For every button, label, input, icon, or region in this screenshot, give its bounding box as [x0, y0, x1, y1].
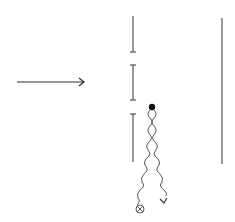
wavy-path-right — [152, 110, 166, 196]
arrow-head-icon — [160, 198, 167, 203]
circled-cross-icon — [136, 205, 144, 213]
filled-dot-icon — [149, 104, 155, 110]
diagram-canvas — [0, 0, 235, 222]
wavy-path-left — [137, 110, 152, 205]
incident-arrow — [17, 78, 84, 86]
slit-barrier — [130, 16, 136, 162]
